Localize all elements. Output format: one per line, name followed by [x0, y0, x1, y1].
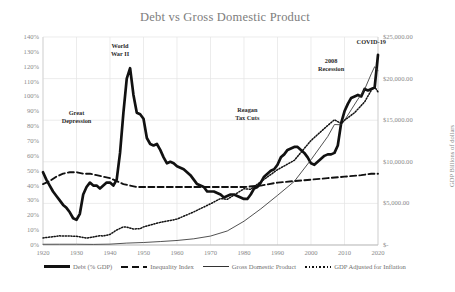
- annotation-2008-recession: 2008Recession: [301, 57, 361, 72]
- y-axis-left-tick-label: 30%: [27, 196, 39, 203]
- y-axis-left-tick-label: 80%: [27, 122, 39, 129]
- x-axis-tick-label: 2000: [295, 249, 327, 256]
- y-axis-right-tick-label: $5,000.00: [383, 199, 409, 206]
- y-axis-right-tick-label: $20,000.00: [383, 75, 413, 82]
- solid-thick-line-icon: [44, 265, 70, 268]
- legend-item[interactable]: GDP Adjusted for Inflation: [305, 263, 406, 270]
- annotation-line: 2008: [301, 57, 361, 64]
- legend-label: Gross Domestic Product: [232, 263, 296, 270]
- y-axis-left-tick-label: 120%: [24, 63, 39, 70]
- annotation-line: COVID-19: [341, 38, 401, 45]
- x-axis-tick-label: 1940: [94, 249, 126, 256]
- dotted-line-icon: [305, 266, 331, 268]
- y-axis-left-tick-label: 140%: [24, 33, 39, 40]
- legend-label: GDP Adjusted for Inflation: [334, 263, 406, 270]
- chart-legend: Debt (% GDP)Inequality IndexGross Domest…: [0, 263, 450, 270]
- y-axis-right-tick-label: $15,000.00: [383, 116, 413, 123]
- y-axis-right-tick-label: $-: [383, 241, 389, 248]
- y-axis-left-tick-label: 70%: [27, 137, 39, 144]
- annotation-world-war-ii: WorldWar II: [90, 42, 150, 57]
- legend-item[interactable]: Debt (% GDP): [44, 263, 112, 270]
- x-axis-tick-label: 1980: [228, 249, 260, 256]
- x-axis-tick-label: 2010: [329, 249, 361, 256]
- x-axis-tick-label: 1920: [27, 249, 59, 256]
- y-axis-left-tick-label: 100%: [24, 92, 39, 99]
- annotation-line: World: [90, 42, 150, 49]
- y-axis-left-tick-label: 40%: [27, 182, 39, 189]
- annotation-line: War II: [90, 50, 150, 57]
- x-axis-tick-label: 1990: [262, 249, 294, 256]
- dashed-line-icon: [121, 266, 147, 268]
- y-axis-right-tick-label: $10,000.00: [383, 158, 413, 165]
- annotation-line: Reagan: [217, 106, 277, 113]
- x-axis-tick-label: 1950: [128, 249, 160, 256]
- solid-thin-line-icon: [203, 266, 229, 267]
- y-axis-left-tick-label: 90%: [27, 107, 39, 114]
- y-axis-left-tick-label: 0%: [30, 241, 39, 248]
- y-axis-left-tick-label: 10%: [27, 226, 39, 233]
- legend-item[interactable]: Inequality Index: [121, 263, 193, 270]
- y-axis-left-tick-label: 60%: [27, 152, 39, 159]
- y-axis-left-tick-label: 20%: [27, 211, 39, 218]
- y-axis-left-tick-label: 110%: [24, 78, 39, 85]
- annotation-line: Tax Cuts: [217, 114, 277, 121]
- y-axis-left-tick-label: 50%: [27, 167, 39, 174]
- y-axis-right-title: GDP Billions of dollars: [448, 96, 455, 216]
- legend-item[interactable]: Gross Domestic Product: [203, 263, 296, 270]
- x-axis-tick-label: 1930: [61, 249, 93, 256]
- annotation-great-depression: GreatDepression: [47, 109, 107, 124]
- legend-label: Debt (% GDP): [73, 263, 112, 270]
- annotation-covid-19: COVID-19: [341, 38, 401, 45]
- annotation-line: Great: [47, 109, 107, 116]
- legend-label: Inequality Index: [150, 263, 193, 270]
- y-axis-left-tick-label: 130%: [24, 48, 39, 55]
- x-axis-tick-label: 2020: [362, 249, 394, 256]
- annotation-reagan-tax-cuts: ReaganTax Cuts: [217, 106, 277, 121]
- annotation-line: Recession: [301, 65, 361, 72]
- x-axis-tick-label: 1970: [195, 249, 227, 256]
- x-axis-tick-label: 1960: [161, 249, 193, 256]
- annotation-line: Depression: [47, 117, 107, 124]
